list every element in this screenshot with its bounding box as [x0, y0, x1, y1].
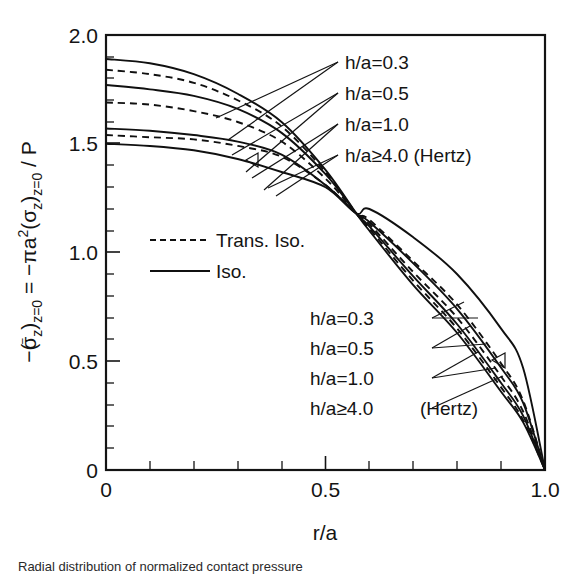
annotation-lower-hertz: (Hertz) [420, 398, 478, 419]
legend-entry-iso: Iso. [150, 261, 247, 282]
y-title-sub-z2: z [29, 203, 45, 210]
legend-entry-trans-iso: Trans. Iso. [150, 230, 305, 251]
y-title-pi-a: πa [17, 237, 40, 263]
x-tick-label-0: 0 [100, 478, 112, 501]
legend-label-iso: Iso. [216, 261, 247, 282]
y-title-sub-eq1: z=0 [29, 300, 45, 323]
x-tick-label-1.0: 1.0 [530, 478, 559, 501]
curve-ha-4.0-hertz [106, 144, 545, 470]
annotation-lower-ha-0.3: h/a=0.3 [310, 308, 374, 329]
y-title-p5: / P [17, 141, 40, 173]
curve-ha-1.0-transiso [106, 135, 545, 470]
y-tick-label-2.0: 2.0 [69, 24, 98, 47]
y-title-sigma-bar: σ [17, 337, 40, 350]
y-title-sup2: 2 [15, 230, 31, 238]
figure-caption: Radial distribution of normalized contac… [18, 559, 303, 574]
x-axis-ticks [106, 456, 545, 470]
y-title-sub-eq2: z=0 [29, 173, 45, 196]
y-title-sub-z1: z [29, 330, 45, 337]
annotation-upper-ha-4.0-hertz: h/a≥4.0 (Hertz) [345, 145, 472, 166]
annotation-lower-ha-0.5: h/a=0.5 [310, 338, 374, 359]
annotation-lower-ha-1.0: h/a=1.0 [310, 368, 374, 389]
annotation-upper-ha-0.5: h/a=0.5 [345, 83, 409, 104]
x-axis-title: r/a [313, 521, 338, 544]
annotation-upper-ha-1.0: h/a=1.0 [345, 114, 409, 135]
chart-canvas: 2.0 1.5 1.0 0.5 0 0 0.5 1.0 r/a −(‾σz [0, 0, 576, 574]
y-title-p3: ( [17, 223, 40, 230]
y-title-eq: = − [17, 264, 40, 300]
x-tick-label-0.5: 0.5 [311, 478, 340, 501]
y-tick-label-0.5: 0.5 [69, 350, 98, 373]
legend-label-trans-iso: Trans. Iso. [216, 230, 305, 251]
annotation-upper-ha-0.3: h/a=0.3 [345, 52, 409, 73]
y-tick-label-0: 0 [86, 459, 98, 482]
legend: Trans. Iso. Iso. [150, 230, 305, 282]
y-title-p4: ) [17, 196, 40, 203]
y-tick-label-1.0: 1.0 [69, 241, 98, 264]
annotation-lower-ha-4.0: h/a≥4.0 [310, 398, 373, 419]
y-axis-ticks [106, 35, 120, 470]
y-title-p2: ) [17, 323, 40, 330]
upper-leader-lines [216, 62, 338, 196]
figure-container: 2.0 1.5 1.0 0.5 0 0 0.5 1.0 r/a −(‾σz [0, 0, 576, 574]
y-title-sigma2: σ [17, 210, 40, 223]
svg-text:−(‾σz)z=0 = −πa2(σz)z=0 / P: −(‾σz)z=0 = −πa2(σz)z=0 / P [15, 141, 45, 363]
y-axis-title: −(‾σz)z=0 = −πa2(σz)z=0 / P [15, 141, 45, 363]
y-tick-label-1.5: 1.5 [69, 132, 98, 155]
